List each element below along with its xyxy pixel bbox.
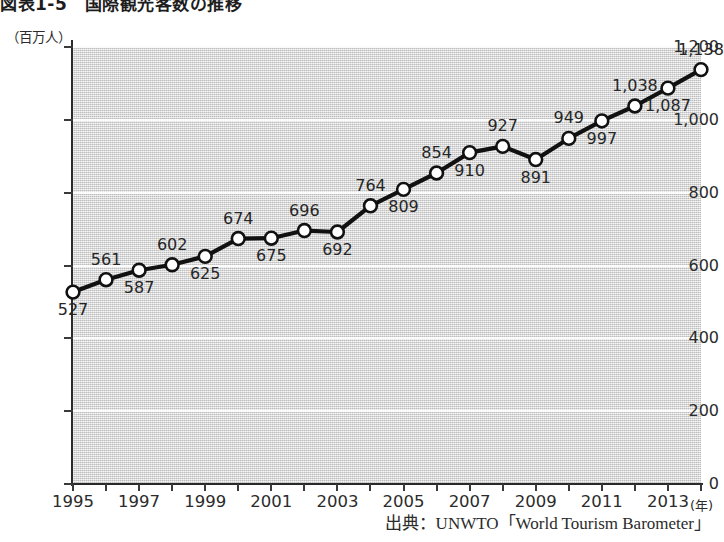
data-point-label: 1,087	[645, 96, 691, 115]
x-axis-tick	[535, 484, 537, 491]
x-axis-tick	[469, 484, 471, 491]
y-axis-tick	[64, 192, 73, 194]
x-axis-tick	[502, 484, 504, 491]
data-point-label: 527	[58, 300, 89, 319]
x-axis-tick	[270, 484, 272, 491]
data-point-label: 696	[289, 201, 320, 220]
x-axis-tick	[237, 484, 239, 491]
data-point-label: 674	[223, 209, 254, 228]
gridline	[73, 46, 701, 48]
x-axis-tick-label: 2007	[449, 492, 491, 511]
y-axis-tick	[64, 119, 73, 121]
gridline	[73, 265, 701, 267]
x-axis-tick	[634, 484, 636, 491]
x-axis-tick-label: 2011	[581, 492, 623, 511]
data-point-label: 809	[388, 197, 419, 216]
x-axis-tick	[436, 484, 438, 491]
y-axis-tick-label: 200	[657, 401, 719, 420]
x-axis-tick	[403, 484, 405, 491]
x-axis-tick	[171, 484, 173, 491]
x-axis-tick-label: 2003	[316, 492, 358, 511]
data-point-label: 625	[190, 264, 221, 283]
data-point-label: 675	[256, 246, 287, 265]
data-point-label: 854	[421, 143, 452, 162]
x-axis-tick	[303, 484, 305, 491]
y-axis-tick-label: 600	[657, 256, 719, 275]
y-axis-line	[71, 40, 73, 486]
gridline	[73, 192, 701, 194]
x-axis-tick-label: 1997	[118, 492, 160, 511]
x-axis-tick	[700, 484, 702, 491]
gridline	[73, 410, 701, 412]
y-axis-tick-label: 400	[657, 328, 719, 347]
x-axis-tick-label: 2013	[647, 492, 689, 511]
page-title: 図表1-5 国際観光客数の推移	[0, 0, 719, 16]
x-axis-tick-label: 2001	[250, 492, 292, 511]
gridline	[73, 119, 701, 121]
data-point-label: 764	[355, 176, 386, 195]
y-axis-tick-label: 800	[657, 183, 719, 202]
y-axis-tick	[64, 265, 73, 267]
y-axis-unit-label: （百万人）	[6, 26, 71, 46]
data-point-label: 891	[520, 168, 551, 187]
x-axis-tick	[336, 484, 338, 491]
x-axis-unit-label: (年)	[690, 495, 713, 514]
data-point-label: 949	[554, 108, 585, 127]
gridline	[73, 337, 701, 339]
x-axis-tick-label: 2009	[515, 492, 557, 511]
data-point-label: 1,038	[612, 76, 658, 95]
x-axis-line	[71, 483, 703, 485]
y-axis-tick	[64, 410, 73, 412]
data-point-label: 997	[587, 129, 618, 148]
x-axis-tick	[72, 484, 74, 491]
data-point-label: 561	[91, 250, 122, 269]
x-axis-tick	[105, 484, 107, 491]
x-axis-tick	[667, 484, 669, 491]
data-point-label: 602	[157, 235, 188, 254]
data-point-label: 692	[322, 240, 353, 259]
x-axis-tick-label: 1999	[184, 492, 226, 511]
x-axis-tick	[204, 484, 206, 491]
data-point-label: 587	[124, 278, 155, 297]
data-point-label: 910	[454, 161, 485, 180]
y-axis-tick	[64, 337, 73, 339]
source-note: 出典：UNWTO「World Tourism Barometer」	[385, 509, 711, 534]
x-axis-tick	[601, 484, 603, 491]
x-axis-tick	[369, 484, 371, 491]
x-axis-tick	[568, 484, 570, 491]
y-axis-tick	[64, 46, 73, 48]
x-axis-tick-label: 1995	[52, 492, 94, 511]
x-axis-tick-label: 2005	[383, 492, 425, 511]
data-point-label: 927	[487, 116, 518, 135]
x-axis-tick	[138, 484, 140, 491]
data-point-label: 1,138	[678, 40, 724, 59]
chart-plot-area	[73, 47, 701, 484]
